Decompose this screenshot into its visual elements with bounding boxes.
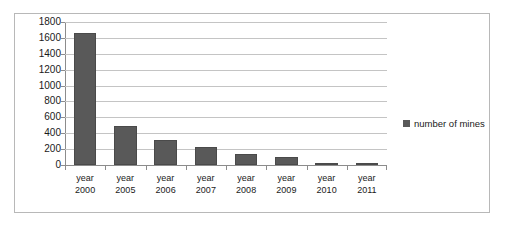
x-axis-tick-marks <box>65 165 387 170</box>
x-axis-category-label-line: year <box>146 172 186 184</box>
bar[interactable] <box>275 157 298 165</box>
chart-frame: 180016001400120010008006004002000 year20… <box>14 13 490 213</box>
y-axis-tick-label: 1200 <box>39 65 61 75</box>
bar[interactable] <box>235 154 258 165</box>
x-axis-tick-mark <box>146 165 147 170</box>
x-axis-tick-mark <box>307 165 308 170</box>
x-axis-tick-cell <box>146 165 186 170</box>
bar-slot <box>307 22 347 165</box>
x-axis-tick-cell <box>226 165 266 170</box>
x-axis-tick-cell <box>65 165 105 170</box>
x-axis-category-labels: year2000year2005year2006year2007year2008… <box>65 172 387 196</box>
bar-slot <box>146 22 186 165</box>
x-axis-tick-mark <box>266 165 267 170</box>
bar[interactable] <box>114 126 137 165</box>
x-axis-category-label: year2005 <box>105 172 145 196</box>
plot-area <box>65 22 387 165</box>
x-axis-tick-mark <box>65 165 66 170</box>
y-axis-tick-label: 1400 <box>39 49 61 59</box>
x-axis-category-label-line: 2011 <box>347 184 387 196</box>
x-axis-tick-cell <box>347 165 387 170</box>
y-axis-tick-mark <box>61 149 65 150</box>
x-axis-category-label-line: 2006 <box>146 184 186 196</box>
y-axis-tick-label: 200 <box>44 144 61 154</box>
y-axis-tick-mark <box>61 86 65 87</box>
bar[interactable] <box>154 140 177 165</box>
y-axis-tick-mark <box>61 101 65 102</box>
x-axis-category-label: year2009 <box>266 172 306 196</box>
y-axis-tick-mark <box>61 117 65 118</box>
x-axis-tick-cell <box>186 165 226 170</box>
legend-swatch-icon <box>403 120 410 127</box>
x-axis-category-label-line: year <box>307 172 347 184</box>
y-axis-tick-mark <box>61 54 65 55</box>
bar-slot <box>347 22 387 165</box>
bar-slot <box>65 22 105 165</box>
x-axis-category-label-line: year <box>186 172 226 184</box>
y-axis-tick-mark <box>61 70 65 71</box>
x-axis-category-label-line: year <box>347 172 387 184</box>
x-axis-category-label-line: 2005 <box>105 184 145 196</box>
x-axis-tick-cell <box>307 165 347 170</box>
bar-slot <box>186 22 226 165</box>
x-axis-category-label: year2006 <box>146 172 186 196</box>
x-axis-category-label-line: 2008 <box>226 184 266 196</box>
x-axis-category-label-line: 2010 <box>307 184 347 196</box>
x-axis-category-label-line: year <box>105 172 145 184</box>
x-axis-category-label: year2011 <box>347 172 387 196</box>
x-axis-tick-mark <box>386 165 387 170</box>
y-axis-tick-labels: 180016001400120010008006004002000 <box>21 22 61 165</box>
y-axis-tick-label: 1800 <box>39 17 61 27</box>
x-axis-category-label: year2000 <box>65 172 105 196</box>
bar-slot <box>105 22 145 165</box>
y-axis-tick-mark <box>61 22 65 23</box>
y-axis-tick-label: 800 <box>44 96 61 106</box>
x-axis-category-label-line: year <box>266 172 306 184</box>
y-axis-tick-label: 1600 <box>39 33 61 43</box>
x-axis-tick-cell <box>266 165 306 170</box>
bar-slot <box>266 22 306 165</box>
x-axis-tick-mark <box>226 165 227 170</box>
x-axis-category-label: year2007 <box>186 172 226 196</box>
x-axis-tick-mark <box>105 165 106 170</box>
legend-label: number of mines <box>414 118 485 129</box>
y-axis-tick-label: 400 <box>44 128 61 138</box>
bar[interactable] <box>195 147 218 165</box>
x-axis-category-label-line: 2007 <box>186 184 226 196</box>
x-axis-category-label: year2008 <box>226 172 266 196</box>
x-axis-category-label-line: year <box>65 172 105 184</box>
y-axis-tick-mark <box>61 165 65 166</box>
x-axis-tick-mark <box>186 165 187 170</box>
bar-series <box>65 22 387 165</box>
bar[interactable] <box>74 33 97 165</box>
x-axis-tick-mark <box>347 165 348 170</box>
y-axis-tick-mark <box>61 133 65 134</box>
x-axis-category-label-line: 2009 <box>266 184 306 196</box>
chart-legend: number of mines <box>403 118 485 129</box>
y-axis-tick-label: 1000 <box>39 81 61 91</box>
x-axis-category-label-line: 2000 <box>65 184 105 196</box>
y-axis-tick-mark <box>61 38 65 39</box>
chart-plot-wrapper: 180016001400120010008006004002000 year20… <box>15 14 489 212</box>
x-axis-category-label: year2010 <box>307 172 347 196</box>
x-axis-tick-cell <box>105 165 145 170</box>
y-axis-tick-label: 600 <box>44 112 61 122</box>
x-axis-category-label-line: year <box>226 172 266 184</box>
bar-slot <box>226 22 266 165</box>
